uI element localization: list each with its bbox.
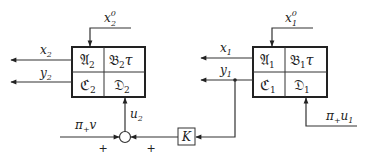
svg-text:x01: x01 — [285, 9, 297, 28]
signal-u2: u2 — [125, 98, 143, 132]
svg-text:π+v: π+v — [74, 118, 97, 134]
svg-text:y1: y1 — [219, 63, 232, 79]
output-x2: x2 — [11, 43, 72, 60]
input-x1-initial: x01 — [272, 9, 313, 46]
svg-text:x1: x1 — [220, 41, 232, 57]
block-system-1: 𝔄1 𝔅1τ ℭ1 𝔇1 — [253, 47, 327, 97]
input-x2-initial: x02 — [90, 9, 131, 46]
output-y2: y2 — [11, 66, 72, 82]
svg-text:x2: x2 — [40, 43, 52, 59]
output-y1: y1 — [196, 63, 253, 137]
plus-sign-right: + — [146, 142, 155, 155]
plus-sign-left: + — [98, 142, 107, 155]
output-x1: x1 — [201, 41, 253, 58]
gain-block-K: K — [178, 128, 195, 145]
summing-junction — [120, 132, 131, 143]
svg-text:y2: y2 — [39, 66, 52, 82]
block-diagram: 𝔄2 𝔅2τ ℭ2 𝔇2 𝔄1 𝔅1τ ℭ1 𝔇1 x02 x01 x2 y2 … — [0, 0, 366, 157]
block-system-2: 𝔄2 𝔅2τ ℭ2 𝔇2 — [72, 47, 145, 97]
svg-text:π+u1: π+u1 — [325, 109, 353, 125]
svg-text:u2: u2 — [130, 107, 143, 123]
svg-text:K: K — [181, 130, 192, 144]
svg-text:x02: x02 — [104, 9, 116, 28]
input-pi-u1: π+u1 — [306, 98, 357, 126]
input-pi-v: π+v — [60, 118, 119, 137]
